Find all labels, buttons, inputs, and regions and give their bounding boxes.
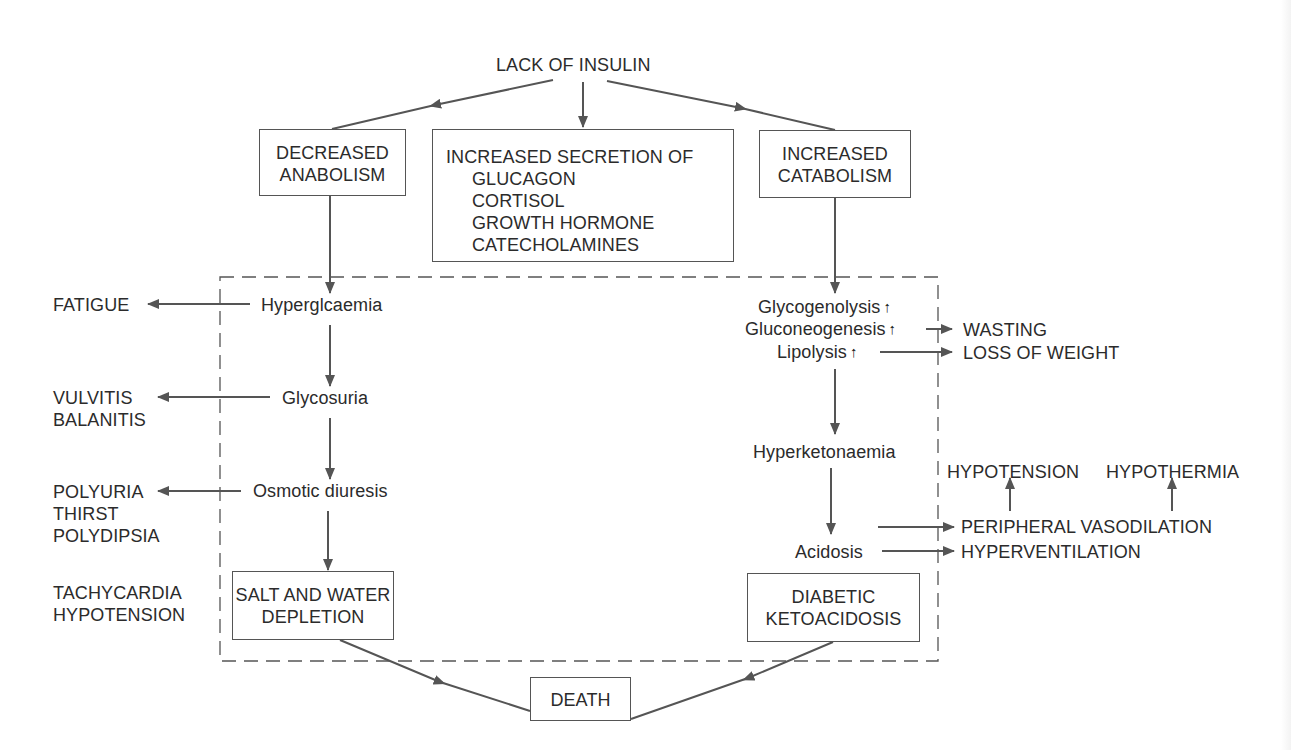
death-label: DEATH — [531, 689, 630, 711]
node-acidosis: Acidosis — [795, 541, 863, 563]
box-label-line2: DEPLETION — [233, 606, 393, 628]
box-label-line2: ANABOLISM — [260, 164, 405, 186]
node-osmotic-diuresis: Osmotic diuresis — [253, 480, 388, 502]
box-increased-secretion: INCREASED SECRETION OF GLUCAGON CORTISOL… — [432, 129, 734, 262]
process-label: Gluconeogenesis — [745, 319, 886, 339]
node-gluconeogenesis: Gluconeogenesis↑ — [745, 318, 896, 341]
node-hyperketonaemia: Hyperketonaemia — [753, 441, 896, 463]
node-glycosuria: Glycosuria — [282, 387, 368, 409]
root-node-lack-of-insulin: LACK OF INSULIN — [496, 54, 651, 76]
effect-hypothermia: HYPOTHERMIA — [1106, 461, 1239, 483]
box-label-line1: INCREASED — [760, 143, 910, 165]
box-label-line2: KETOACIDOSIS — [748, 608, 919, 630]
secretion-heading: INCREASED SECRETION OF — [446, 146, 693, 168]
node-lipolysis: Lipolysis↑ — [777, 341, 858, 364]
effect-balanitis: BALANITIS — [53, 409, 146, 431]
box-death: DEATH — [530, 677, 631, 721]
effect-thirst: THIRST — [53, 503, 119, 525]
effect-hypotension-left: HYPOTENSION — [53, 604, 185, 626]
effect-wasting: WASTING — [963, 319, 1047, 341]
effect-loss-of-weight: LOSS OF WEIGHT — [963, 342, 1119, 364]
effect-polyuria: POLYURIA — [53, 481, 144, 503]
increase-arrow-icon: ↑ — [850, 341, 858, 363]
hormone-catecholamines: CATECHOLAMINES — [472, 234, 639, 256]
box-label-line1: DECREASED — [260, 142, 405, 164]
connector-lines — [0, 0, 1291, 750]
process-label: Lipolysis — [777, 342, 847, 362]
box-diabetic-ketoacidosis: DIABETIC KETOACIDOSIS — [747, 573, 920, 642]
box-label-line1: SALT AND WATER — [233, 584, 393, 606]
effect-tachycardia: TACHYCARDIA — [53, 582, 182, 604]
box-increased-catabolism: INCREASED CATABOLISM — [759, 130, 911, 198]
box-label-line2: CATABOLISM — [760, 165, 910, 187]
process-label: Glycogenolysis — [758, 297, 880, 317]
effect-peripheral-vasodilation: PERIPHERAL VASODILATION — [961, 516, 1212, 538]
node-hyperglycaemia: Hyperglcaemia — [261, 294, 382, 316]
increase-arrow-icon: ↑ — [883, 296, 891, 318]
hormone-growth-hormone: GROWTH HORMONE — [472, 212, 654, 234]
hormone-cortisol: CORTISOL — [472, 190, 565, 212]
box-label-line1: DIABETIC — [748, 586, 919, 608]
effect-polydipsia: POLYDIPSIA — [53, 525, 160, 547]
effect-hypotension-right: HYPOTENSION — [947, 461, 1079, 483]
increase-arrow-icon: ↑ — [889, 318, 897, 340]
hormone-glucagon: GLUCAGON — [472, 168, 576, 190]
node-glycogenolysis: Glycogenolysis↑ — [758, 296, 891, 319]
effect-fatigue: FATIGUE — [53, 294, 129, 316]
effect-vulvitis: VULVITIS — [53, 387, 133, 409]
effect-hyperventilation: HYPERVENTILATION — [961, 541, 1141, 563]
box-salt-water-depletion: SALT AND WATER DEPLETION — [232, 571, 394, 640]
box-decreased-anabolism: DECREASED ANABOLISM — [259, 129, 406, 196]
